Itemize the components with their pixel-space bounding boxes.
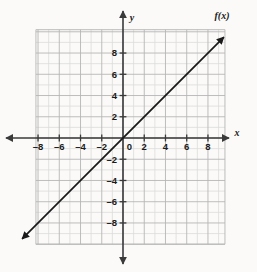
- function-label: f(x): [215, 10, 230, 22]
- x-tick-label: –8: [33, 141, 44, 152]
- x-tick-label: 6: [184, 141, 189, 152]
- graph-figure: –8–6–4–202468 8642–2–4–6–8 x y f(x): [0, 0, 257, 272]
- y-tick-label: –8: [106, 217, 117, 228]
- y-axis-label: y: [129, 12, 135, 23]
- y-tick-label: –2: [106, 154, 117, 165]
- x-tick-label: –6: [54, 141, 65, 152]
- y-tick-label: –4: [106, 175, 117, 186]
- coordinate-plane-svg: –8–6–4–202468 8642–2–4–6–8 x y f(x): [0, 0, 257, 272]
- x-tick-label: 4: [163, 141, 169, 152]
- y-tick-label: 8: [112, 47, 117, 58]
- x-tick-label: –4: [75, 141, 86, 152]
- y-tick-label: 2: [112, 111, 117, 122]
- y-tick-label: 6: [112, 69, 117, 80]
- x-tick-label: 2: [142, 141, 147, 152]
- x-axis-label: x: [234, 127, 240, 138]
- x-tick-label: 8: [205, 141, 210, 152]
- x-tick-label: 0: [127, 141, 132, 152]
- y-tick-label: 4: [112, 90, 118, 101]
- x-tick-label: –2: [96, 141, 107, 152]
- y-tick-label: –6: [106, 196, 117, 207]
